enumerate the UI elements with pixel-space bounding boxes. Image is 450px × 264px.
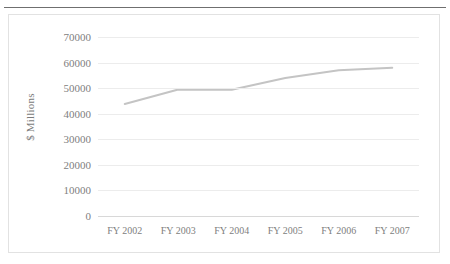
- y-tick-label: 40000: [64, 108, 92, 120]
- gridline: [98, 165, 419, 166]
- x-tick-label: FY 2003: [161, 225, 196, 236]
- series-line: [125, 68, 393, 104]
- axis-baseline: [98, 216, 419, 217]
- plot-area: 010000200003000040000500006000070000FY 2…: [98, 37, 419, 216]
- x-tick-label: FY 2006: [321, 225, 356, 236]
- chart-frame: $ Millions 01000020000300004000050000600…: [8, 14, 440, 253]
- gridline: [98, 190, 419, 191]
- gridline: [98, 139, 419, 140]
- y-axis-title: $ Millions: [24, 72, 36, 162]
- y-tick-label: 60000: [64, 57, 92, 69]
- y-tick-label: 0: [86, 210, 92, 222]
- page-top-rule: [4, 7, 446, 8]
- x-tick-label: FY 2004: [214, 225, 249, 236]
- y-tick-label: 20000: [64, 159, 92, 171]
- series-line-chart: [98, 37, 419, 216]
- y-tick-label: 70000: [64, 31, 92, 43]
- x-tick-label: FY 2005: [268, 225, 303, 236]
- gridline: [98, 37, 419, 38]
- x-tick-label: FY 2002: [107, 225, 142, 236]
- y-tick-label: 10000: [64, 184, 92, 196]
- gridline: [98, 63, 419, 64]
- gridline: [98, 114, 419, 115]
- y-tick-label: 30000: [64, 133, 92, 145]
- gridline: [98, 88, 419, 89]
- x-tick-label: FY 2007: [375, 225, 410, 236]
- y-tick-label: 50000: [64, 82, 92, 94]
